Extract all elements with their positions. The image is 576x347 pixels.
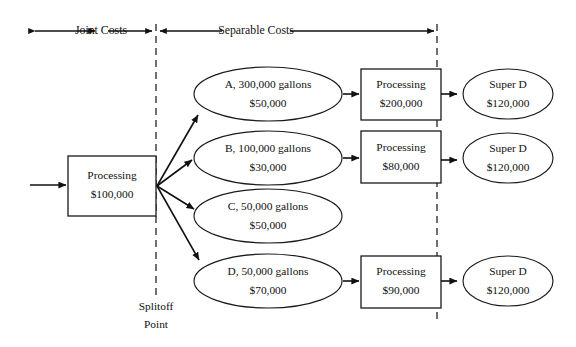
joint-processing-box (68, 156, 156, 216)
separable-processing-label-b: Processing (376, 141, 426, 153)
separable-processing-label-d: Processing (376, 265, 426, 277)
joint-costs-header: Joint Costs (35, 23, 152, 37)
joint-processing-label: Processing (87, 169, 137, 181)
product-amount-a: $50,000 (249, 97, 286, 109)
joint-processing-node: Processing $100,000 (68, 156, 156, 216)
final-product-label-b: Super D (489, 142, 527, 154)
product-node-d: D, 50,000 gallons $70,000 (194, 254, 342, 308)
final-product-label-a: Super D (489, 78, 527, 90)
splitoff-arrow-c (157, 186, 194, 209)
product-ellipse-c (194, 189, 342, 243)
product-amount-d: $70,000 (249, 284, 286, 296)
product-node-b: B, 100,000 gallons $30,000 (194, 131, 342, 185)
separable-processing-node-d: Processing $90,000 (361, 256, 441, 308)
separable-costs-header: Separable Costs (160, 23, 434, 37)
joint-cost-diagram: Joint Costs Separable Costs Processing $… (0, 0, 576, 347)
splitoff-arrow-a (157, 115, 198, 186)
final-product-amount-d: $120,000 (487, 284, 530, 296)
product-node-a: A, 300,000 gallons $50,000 (194, 67, 342, 121)
product-ellipse-d (194, 254, 342, 308)
separable-processing-box-b (361, 131, 441, 183)
diagram-canvas: Joint Costs Separable Costs Processing $… (0, 0, 576, 347)
product-label-c: C, 50,000 gallons (228, 200, 309, 212)
joint-costs-label: Joint Costs (75, 23, 128, 37)
product-node-c: C, 50,000 gallons $50,000 (194, 189, 342, 243)
separable-costs-label: Separable Costs (218, 23, 294, 37)
separable-processing-node-b: Processing $80,000 (361, 131, 441, 183)
product-label-b: B, 100,000 gallons (225, 142, 312, 154)
separable-processing-amount-d: $90,000 (382, 284, 419, 296)
final-product-ellipse-d (463, 256, 553, 306)
separable-processing-node-a: Processing $200,000 (361, 69, 441, 120)
separable-processing-amount-b: $80,000 (382, 160, 419, 172)
joint-processing-amount: $100,000 (91, 188, 134, 200)
splitoff-caption-line1: Splitoff (139, 300, 174, 312)
final-product-amount-a: $120,000 (487, 97, 530, 109)
splitoff-caption-line2: Point (144, 318, 169, 330)
final-product-amount-b: $120,000 (487, 161, 530, 173)
separable-processing-amount-a: $200,000 (380, 97, 423, 109)
final-product-ellipse-b (463, 133, 553, 183)
splitoff-arrow-b (157, 160, 192, 186)
final-product-node-d: Super D $120,000 (463, 256, 553, 306)
product-amount-b: $30,000 (249, 161, 286, 173)
product-amount-c: $50,000 (249, 219, 286, 231)
product-label-d: D, 50,000 gallons (228, 265, 310, 277)
splitoff-arrow-d (157, 186, 199, 260)
final-product-ellipse-a (463, 69, 553, 119)
product-label-a: A, 300,000 gallons (225, 78, 312, 90)
product-ellipse-b (194, 131, 342, 185)
product-ellipse-a (194, 67, 342, 121)
final-product-node-b: Super D $120,000 (463, 133, 553, 183)
separable-processing-label-a: Processing (376, 78, 426, 90)
final-product-label-d: Super D (489, 265, 527, 277)
final-product-node-a: Super D $120,000 (463, 69, 553, 119)
